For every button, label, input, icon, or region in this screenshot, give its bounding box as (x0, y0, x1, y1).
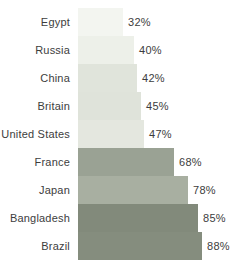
category-label: Britain (0, 100, 78, 112)
value-label: 42% (142, 72, 165, 84)
category-label: United States (0, 128, 78, 140)
bar (78, 176, 188, 204)
bar-row: Russia40% (0, 36, 243, 64)
category-label: Bangladesh (0, 212, 78, 224)
category-label: Russia (0, 44, 78, 56)
bar-row: China42% (0, 64, 243, 92)
value-label: 40% (139, 44, 162, 56)
value-label: 47% (149, 128, 172, 140)
category-label: Japan (0, 184, 78, 196)
category-label: Brazil (0, 240, 78, 252)
value-label: 78% (193, 184, 216, 196)
bar-row: Bangladesh85% (0, 204, 243, 232)
bar-row: Brazil88% (0, 232, 243, 260)
bar (78, 8, 123, 36)
bar (78, 148, 174, 176)
bar (78, 36, 134, 64)
bar (78, 64, 137, 92)
bar-row: United States47% (0, 120, 243, 148)
bar (78, 92, 141, 120)
bar (78, 232, 202, 260)
bar-row: Britain45% (0, 92, 243, 120)
category-label: China (0, 72, 78, 84)
value-label: 45% (146, 100, 169, 112)
bar (78, 204, 198, 232)
bar-row: France68% (0, 148, 243, 176)
bar-row: Egypt32% (0, 8, 243, 36)
value-label: 32% (128, 16, 151, 28)
category-label: Egypt (0, 16, 78, 28)
value-label: 85% (203, 212, 226, 224)
bar (78, 120, 144, 148)
bar-chart-rows: Egypt32%Russia40%China42%Britain45%Unite… (0, 8, 243, 260)
value-label: 88% (207, 240, 230, 252)
bar-chart: Egypt32%Russia40%China42%Britain45%Unite… (0, 0, 243, 277)
value-label: 68% (179, 156, 202, 168)
category-label: France (0, 156, 78, 168)
bar-row: Japan78% (0, 176, 243, 204)
